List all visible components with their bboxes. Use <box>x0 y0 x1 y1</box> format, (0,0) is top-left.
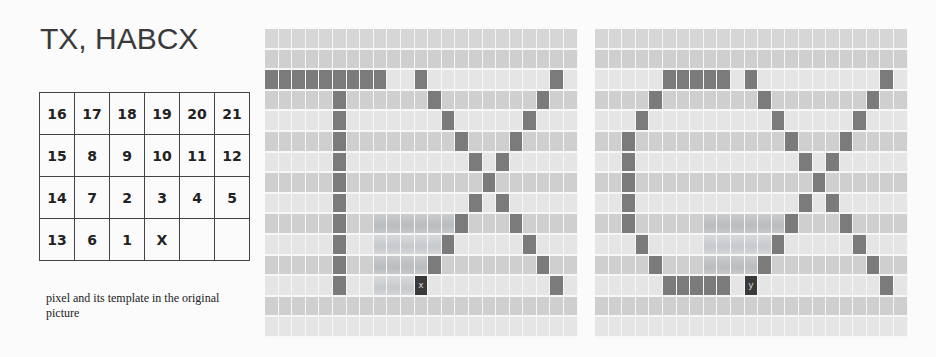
stroke-pixel <box>704 276 718 297</box>
background-pixel <box>442 276 456 297</box>
stroke-pixel <box>880 276 894 297</box>
template-pixel <box>772 214 786 235</box>
stroke-pixel <box>622 214 636 235</box>
background-pixel <box>523 194 537 215</box>
background-pixel <box>663 214 677 235</box>
background-pixel <box>745 194 759 215</box>
background-pixel <box>853 256 867 277</box>
background-pixel <box>853 194 867 215</box>
background-pixel <box>360 256 374 277</box>
background-pixel <box>609 153 623 174</box>
background-pixel <box>813 70 827 91</box>
stroke-pixel <box>333 276 347 297</box>
background-pixel <box>537 132 551 153</box>
stroke-pixel <box>455 132 469 153</box>
background-pixel <box>442 317 456 338</box>
stroke-pixel <box>813 173 827 194</box>
background-pixel <box>595 194 609 215</box>
background-pixel <box>292 235 306 256</box>
background-pixel <box>731 317 745 338</box>
template-pixel <box>387 256 401 277</box>
background-pixel <box>469 29 483 50</box>
stroke-pixel <box>347 70 361 91</box>
stroke-pixel <box>622 194 636 215</box>
background-pixel <box>609 297 623 318</box>
background-pixel <box>496 132 510 153</box>
background-pixel <box>306 194 320 215</box>
background-pixel <box>677 50 691 71</box>
background-pixel <box>853 50 867 71</box>
background-pixel <box>622 317 636 338</box>
background-pixel <box>374 91 388 112</box>
template-pixel <box>415 235 429 256</box>
background-pixel <box>523 29 537 50</box>
background-pixel <box>469 91 483 112</box>
background-pixel <box>279 276 293 297</box>
background-pixel <box>469 276 483 297</box>
background-pixel <box>595 153 609 174</box>
stroke-pixel <box>840 132 854 153</box>
background-pixel <box>550 111 564 132</box>
background-pixel <box>622 70 636 91</box>
background-pixel <box>717 132 731 153</box>
template-pixel <box>745 235 759 256</box>
background-pixel <box>622 256 636 277</box>
background-pixel <box>469 297 483 318</box>
background-pixel <box>813 317 827 338</box>
background-pixel <box>867 29 881 50</box>
background-pixel <box>401 317 415 338</box>
background-pixel <box>265 91 279 112</box>
background-pixel <box>663 91 677 112</box>
table-cell: 14 <box>40 177 75 219</box>
background-pixel <box>880 173 894 194</box>
background-pixel <box>319 111 333 132</box>
stroke-pixel <box>717 70 731 91</box>
background-pixel <box>279 317 293 338</box>
background-pixel <box>663 194 677 215</box>
background-pixel <box>510 194 524 215</box>
background-pixel <box>415 29 429 50</box>
background-pixel <box>455 111 469 132</box>
template-pixel <box>731 256 745 277</box>
background-pixel <box>319 50 333 71</box>
background-pixel <box>523 91 537 112</box>
background-pixel <box>772 194 786 215</box>
background-pixel <box>813 235 827 256</box>
background-pixel <box>279 194 293 215</box>
background-pixel <box>483 194 497 215</box>
stroke-pixel <box>772 235 786 256</box>
background-pixel <box>550 256 564 277</box>
background-pixel <box>853 297 867 318</box>
background-pixel <box>677 214 691 235</box>
background-pixel <box>813 256 827 277</box>
stroke-pixel <box>636 111 650 132</box>
stroke-pixel <box>840 214 854 235</box>
background-pixel <box>319 235 333 256</box>
background-pixel <box>292 91 306 112</box>
background-pixel <box>663 111 677 132</box>
background-pixel <box>813 50 827 71</box>
background-pixel <box>813 111 827 132</box>
stroke-pixel <box>469 194 483 215</box>
background-pixel <box>510 317 524 338</box>
pixel-grid-cx: y <box>595 29 908 338</box>
table-row: 13 6 1 X <box>40 219 250 261</box>
background-pixel <box>731 153 745 174</box>
background-pixel <box>690 194 704 215</box>
background-pixel <box>442 173 456 194</box>
background-pixel <box>510 111 524 132</box>
stroke-pixel <box>496 153 510 174</box>
background-pixel <box>758 70 772 91</box>
table-cell: 7 <box>75 177 110 219</box>
background-pixel <box>265 256 279 277</box>
background-pixel <box>550 153 564 174</box>
background-pixel <box>867 132 881 153</box>
background-pixel <box>595 91 609 112</box>
background-pixel <box>550 173 564 194</box>
stroke-pixel <box>483 173 497 194</box>
background-pixel <box>867 297 881 318</box>
stroke-pixel <box>690 70 704 91</box>
background-pixel <box>401 132 415 153</box>
background-pixel <box>265 29 279 50</box>
background-pixel <box>813 297 827 318</box>
